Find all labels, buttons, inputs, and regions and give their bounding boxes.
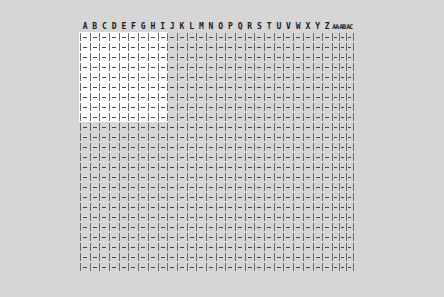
- cell-t11[interactable]: [264, 132, 274, 142]
- cell-n18[interactable]: [206, 202, 216, 212]
- cell-aa22[interactable]: [332, 242, 339, 252]
- column-header-y[interactable]: Y: [313, 22, 323, 32]
- cell-a9[interactable]: [80, 112, 90, 122]
- cell-j5[interactable]: [167, 72, 177, 82]
- cell-r7[interactable]: [245, 92, 255, 102]
- cell-b16[interactable]: [90, 182, 100, 192]
- cell-n17[interactable]: [206, 192, 216, 202]
- column-header-u[interactable]: U: [274, 22, 284, 32]
- cell-h12[interactable]: [148, 142, 158, 152]
- cell-r1[interactable]: [245, 32, 255, 42]
- cell-y5[interactable]: [313, 72, 323, 82]
- cell-b22[interactable]: [90, 242, 100, 252]
- column-header-i[interactable]: I: [158, 22, 168, 32]
- cell-c20[interactable]: [99, 222, 109, 232]
- cell-y6[interactable]: [313, 82, 323, 92]
- cell-l23[interactable]: [187, 252, 197, 262]
- cell-u17[interactable]: [274, 192, 284, 202]
- cell-l8[interactable]: [187, 102, 197, 112]
- cell-y13[interactable]: [313, 152, 323, 162]
- cell-j11[interactable]: [167, 132, 177, 142]
- cell-z21[interactable]: [322, 232, 332, 242]
- cell-n12[interactable]: [206, 142, 216, 152]
- cell-ac18[interactable]: [346, 202, 353, 212]
- cell-z16[interactable]: [322, 182, 332, 192]
- cell-e2[interactable]: [119, 42, 129, 52]
- column-header-r[interactable]: R: [245, 22, 255, 32]
- cell-p12[interactable]: [225, 142, 235, 152]
- cell-g20[interactable]: [138, 222, 148, 232]
- cell-k22[interactable]: [177, 242, 187, 252]
- cell-a16[interactable]: [80, 182, 90, 192]
- cell-y8[interactable]: [313, 102, 323, 112]
- cell-j24[interactable]: [167, 262, 177, 272]
- cell-aa5[interactable]: [332, 72, 339, 82]
- cell-o24[interactable]: [216, 262, 226, 272]
- cell-f9[interactable]: [128, 112, 138, 122]
- cell-r2[interactable]: [245, 42, 255, 52]
- cell-z18[interactable]: [322, 202, 332, 212]
- cell-l15[interactable]: [187, 172, 197, 182]
- cell-r19[interactable]: [245, 212, 255, 222]
- cell-t17[interactable]: [264, 192, 274, 202]
- cell-f4[interactable]: [128, 62, 138, 72]
- cell-ac9[interactable]: [346, 112, 353, 122]
- cell-f14[interactable]: [128, 162, 138, 172]
- cell-b10[interactable]: [90, 122, 100, 132]
- cell-m2[interactable]: [196, 42, 206, 52]
- cell-p5[interactable]: [225, 72, 235, 82]
- cell-e4[interactable]: [119, 62, 129, 72]
- cell-e19[interactable]: [119, 212, 129, 222]
- cell-k17[interactable]: [177, 192, 187, 202]
- column-header-g[interactable]: G: [138, 22, 148, 32]
- cell-r8[interactable]: [245, 102, 255, 112]
- cell-aa21[interactable]: [332, 232, 339, 242]
- cell-y12[interactable]: [313, 142, 323, 152]
- cell-m8[interactable]: [196, 102, 206, 112]
- cell-w17[interactable]: [293, 192, 303, 202]
- cell-o14[interactable]: [216, 162, 226, 172]
- column-header-a[interactable]: A: [80, 22, 90, 32]
- cell-m12[interactable]: [196, 142, 206, 152]
- cell-v20[interactable]: [283, 222, 293, 232]
- cell-ab1[interactable]: [339, 32, 346, 42]
- cell-h17[interactable]: [148, 192, 158, 202]
- cell-e9[interactable]: [119, 112, 129, 122]
- cell-w24[interactable]: [293, 262, 303, 272]
- cell-v12[interactable]: [283, 142, 293, 152]
- cell-l19[interactable]: [187, 212, 197, 222]
- cell-ac20[interactable]: [346, 222, 353, 232]
- cell-a5[interactable]: [80, 72, 90, 82]
- column-header-k[interactable]: K: [177, 22, 187, 32]
- cell-x11[interactable]: [303, 132, 313, 142]
- cell-k6[interactable]: [177, 82, 187, 92]
- cell-s7[interactable]: [254, 92, 264, 102]
- cell-aa7[interactable]: [332, 92, 339, 102]
- cell-ac17[interactable]: [346, 192, 353, 202]
- column-header-q[interactable]: Q: [235, 22, 245, 32]
- cell-m11[interactable]: [196, 132, 206, 142]
- cell-c10[interactable]: [99, 122, 109, 132]
- cell-y21[interactable]: [313, 232, 323, 242]
- cell-t18[interactable]: [264, 202, 274, 212]
- cell-v7[interactable]: [283, 92, 293, 102]
- cell-k2[interactable]: [177, 42, 187, 52]
- cell-ab16[interactable]: [339, 182, 346, 192]
- cell-r5[interactable]: [245, 72, 255, 82]
- cell-o21[interactable]: [216, 232, 226, 242]
- cell-e1[interactable]: [119, 32, 129, 42]
- cell-c21[interactable]: [99, 232, 109, 242]
- cell-l24[interactable]: [187, 262, 197, 272]
- cell-q12[interactable]: [235, 142, 245, 152]
- cell-b20[interactable]: [90, 222, 100, 232]
- cell-t1[interactable]: [264, 32, 274, 42]
- cell-aa17[interactable]: [332, 192, 339, 202]
- column-header-j[interactable]: J: [167, 22, 177, 32]
- cell-l4[interactable]: [187, 62, 197, 72]
- cell-o15[interactable]: [216, 172, 226, 182]
- column-header-o[interactable]: O: [216, 22, 226, 32]
- column-header-z[interactable]: Z: [322, 22, 332, 32]
- cell-m24[interactable]: [196, 262, 206, 272]
- cell-u5[interactable]: [274, 72, 284, 82]
- cell-s3[interactable]: [254, 52, 264, 62]
